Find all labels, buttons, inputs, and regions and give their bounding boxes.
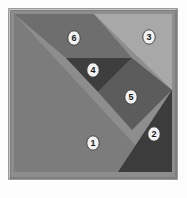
piece-label-4: 4 xyxy=(87,63,99,77)
piece-label-4-marker xyxy=(87,63,99,77)
screenshot-canvas: 1 2 3 4 5 xyxy=(0,0,187,198)
piece-label-1: 1 xyxy=(87,136,99,150)
piece-label-5-marker xyxy=(125,90,137,104)
puzzle-frame: 1 2 3 4 5 xyxy=(8,8,178,180)
piece-label-1-marker xyxy=(87,136,99,150)
piece-label-3: 3 xyxy=(143,30,155,44)
piece-label-2-marker xyxy=(148,127,160,141)
piece-label-5: 5 xyxy=(125,90,137,104)
piece-label-6-marker xyxy=(68,31,80,45)
piece-label-3-marker xyxy=(143,30,155,44)
piece-label-6: 6 xyxy=(68,31,80,45)
piece-label-2: 2 xyxy=(148,127,160,141)
tangram-puzzle-graphic[interactable]: 1 2 3 4 5 xyxy=(8,8,178,180)
